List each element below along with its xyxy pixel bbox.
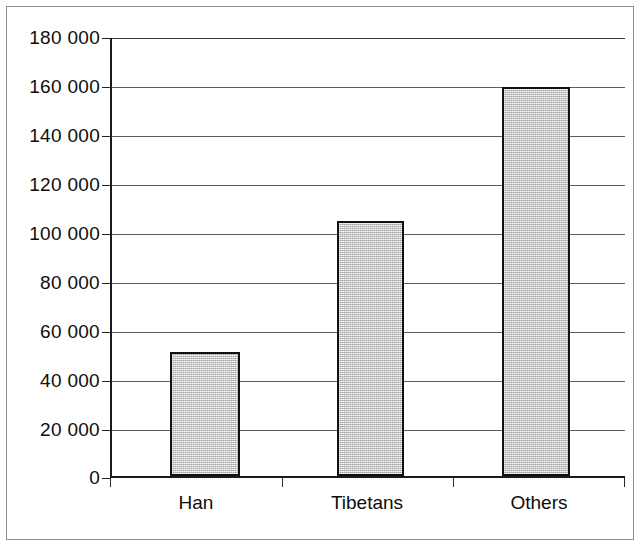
y-axis-tick xyxy=(102,234,110,235)
x-axis-tick xyxy=(453,478,454,487)
gridline-180000 xyxy=(112,38,625,39)
y-axis-tick xyxy=(102,185,110,186)
x-axis-label-others: Others xyxy=(510,492,567,514)
y-axis-tick xyxy=(102,87,110,88)
y-axis-tick xyxy=(102,283,110,284)
y-axis-label: 20 000 xyxy=(4,419,100,441)
y-axis-tick xyxy=(102,332,110,333)
y-axis-tick xyxy=(102,478,110,479)
y-axis-label: 100 000 xyxy=(4,223,100,245)
y-axis-label: 140 000 xyxy=(4,125,100,147)
bar-others xyxy=(502,87,570,476)
bar-chart: 180 000 160 000 140 000 120 000 100 000 … xyxy=(0,0,640,549)
y-axis-label: 0 xyxy=(4,467,100,489)
bar-tibetans xyxy=(337,221,404,477)
x-axis-label-tibetans: Tibetans xyxy=(331,492,403,514)
x-axis-tick xyxy=(110,478,111,487)
y-axis-tick xyxy=(102,38,110,39)
plot-area xyxy=(110,38,625,478)
y-axis-tick xyxy=(102,381,110,382)
bar-han xyxy=(170,352,240,476)
x-axis-tick xyxy=(282,478,283,487)
y-axis-label: 60 000 xyxy=(4,321,100,343)
y-axis-tick xyxy=(102,136,110,137)
y-axis-tick xyxy=(102,430,110,431)
chart-page: 180 000 160 000 140 000 120 000 100 000 … xyxy=(0,0,640,549)
y-axis-labels: 180 000 160 000 140 000 120 000 100 000 … xyxy=(0,0,100,549)
y-axis-label: 120 000 xyxy=(4,174,100,196)
x-axis-tick xyxy=(624,478,625,487)
x-axis-label-han: Han xyxy=(179,492,214,514)
y-axis-label: 160 000 xyxy=(4,76,100,98)
y-axis-label: 80 000 xyxy=(4,272,100,294)
y-axis-label: 180 000 xyxy=(4,27,100,49)
y-axis-label: 40 000 xyxy=(4,370,100,392)
